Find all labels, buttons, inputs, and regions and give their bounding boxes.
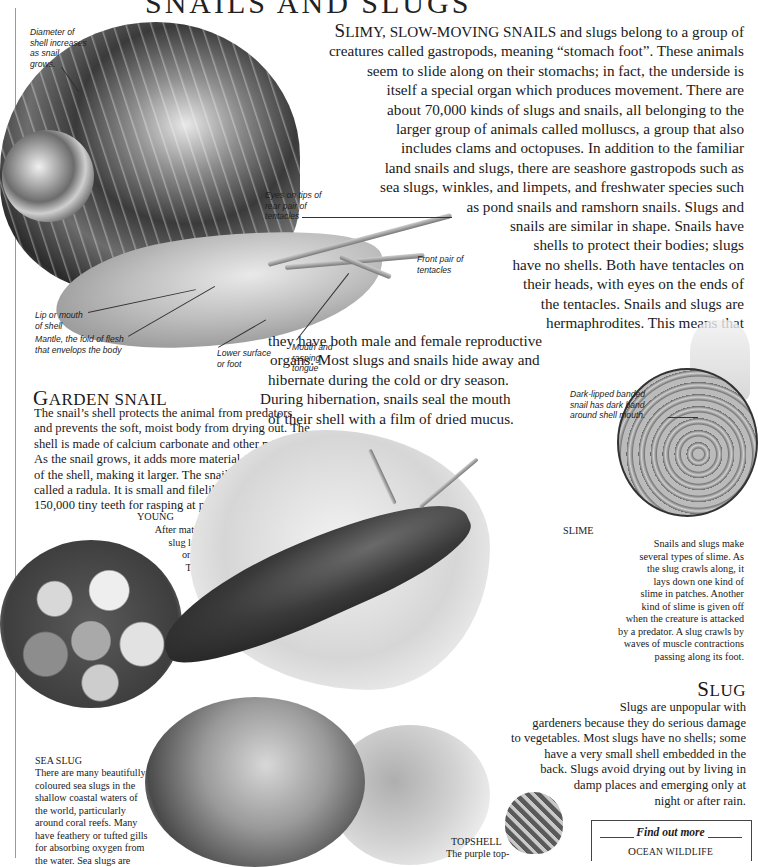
leader-line [668,417,698,418]
page-title: SNAILS AND SLUGS [145,0,471,18]
slime-text: Snails and slugs make several types of s… [618,538,744,663]
sea-slug-heading: SEA SLUG [35,755,82,768]
topshell-heading: TOPSHELL [451,836,502,849]
slug-text: Slugs are unpopular with gardeners becau… [511,700,746,809]
find-rule-right [708,837,742,838]
topshell-text: The purple top- [446,848,509,861]
caption-lip: Lip or mouth of shell [35,310,83,331]
sea-slug-text: There are many beautifully coloured sea … [35,767,148,867]
caption-mantle: Mantle, the fold of flesh that envelops … [35,334,124,355]
slime-heading: SLIME [563,525,594,538]
caption-dark-lipped: Dark-lipped banded snail has dark band a… [570,389,645,421]
caption-lower-surface: Lower surface or foot [217,348,271,369]
young-heading: YOUNG [137,511,174,524]
find-out-more-link-ocean-wildlife[interactable]: OCEAN WILDLIFE [592,845,749,857]
caption-diameter: Diameter of shell increases as snail gro… [30,27,87,69]
topshell-illustration [505,792,563,854]
find-rule-left [600,837,634,838]
intro-paragraph: SLIMY, SLOW-MOVING SNAILS and slugs belo… [184,21,744,333]
sea-slug-photo [145,697,365,867]
slug-heading: SLUG [697,679,746,700]
shell-whorl-illustration [2,130,94,222]
